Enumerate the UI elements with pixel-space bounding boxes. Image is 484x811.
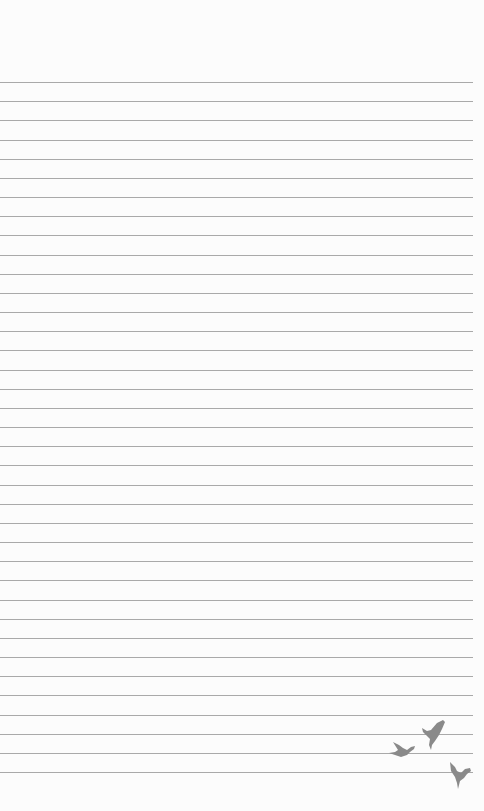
ruled-line bbox=[0, 197, 473, 198]
ruled-line bbox=[0, 350, 473, 351]
ruled-line bbox=[0, 561, 473, 562]
ruled-line bbox=[0, 580, 473, 581]
ruled-line bbox=[0, 120, 473, 121]
ruled-line bbox=[0, 465, 473, 466]
ruled-line bbox=[0, 619, 473, 620]
ruled-line bbox=[0, 331, 473, 332]
ruled-line bbox=[0, 178, 473, 179]
ruled-line bbox=[0, 293, 473, 294]
ruled-line bbox=[0, 695, 473, 696]
ruled-line bbox=[0, 370, 473, 371]
ruled-line bbox=[0, 274, 473, 275]
ruled-line bbox=[0, 82, 473, 83]
ruled-line bbox=[0, 408, 473, 409]
ruled-line bbox=[0, 504, 473, 505]
lined-paper bbox=[0, 0, 484, 811]
ruled-line bbox=[0, 523, 473, 524]
ruled-line bbox=[0, 389, 473, 390]
ruled-line bbox=[0, 657, 473, 658]
birds-icon bbox=[385, 715, 484, 795]
ruled-line bbox=[0, 676, 473, 677]
ruled-line bbox=[0, 101, 473, 102]
ruled-line bbox=[0, 485, 473, 486]
ruled-line bbox=[0, 159, 473, 160]
ruled-line bbox=[0, 255, 473, 256]
ruled-line bbox=[0, 140, 473, 141]
ruled-line bbox=[0, 638, 473, 639]
ruled-line bbox=[0, 446, 473, 447]
ruled-line bbox=[0, 427, 473, 428]
ruled-line bbox=[0, 542, 473, 543]
ruled-line bbox=[0, 216, 473, 217]
ruled-line bbox=[0, 312, 473, 313]
ruled-line bbox=[0, 600, 473, 601]
ruled-line bbox=[0, 235, 473, 236]
